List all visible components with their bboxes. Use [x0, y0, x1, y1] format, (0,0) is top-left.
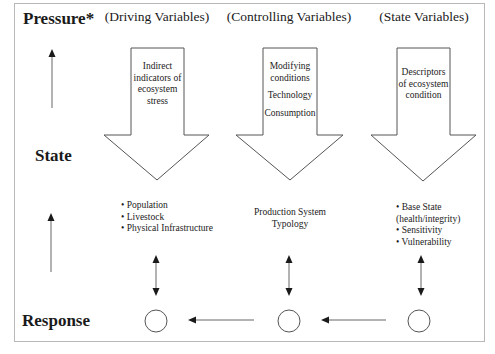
arrow-text-line: conditions	[263, 73, 317, 85]
state-variables-heading: (State Variables)	[359, 9, 489, 25]
state-to-controlling-left-arrow-icon	[321, 317, 386, 324]
controlling-arrow-text: Modifying conditions Technology Consumpt…	[263, 61, 317, 119]
state-variables-list: • Base State (health/integrity) • Sensit…	[396, 202, 460, 248]
arrow-text-line: Consumption	[263, 108, 317, 120]
list-item: Production System	[252, 207, 328, 219]
arrow-text-line: stress	[131, 96, 184, 108]
controlling-double-arrow-icon	[286, 255, 293, 296]
controlling-variables-list: Production System Typology	[252, 207, 328, 230]
driving-response-circle-icon	[145, 310, 167, 332]
list-item: (health/integrity)	[396, 214, 460, 226]
arrow-text-line: Modifying	[263, 61, 317, 73]
state-double-arrow-icon	[418, 255, 425, 296]
controlling-response-circle-icon	[278, 310, 300, 332]
diagram-graphics	[0, 0, 495, 354]
list-item: Typology	[252, 219, 328, 231]
arrow-text-line: condition	[397, 90, 450, 102]
driving-double-arrow-icon	[153, 255, 160, 296]
arrow-text-line: Indirect	[131, 61, 184, 73]
arrow-text-line: Technology	[263, 90, 317, 102]
pressure-label: Pressure*	[23, 9, 94, 29]
list-item: • Vulnerability	[396, 237, 460, 249]
response-label: Response	[22, 311, 90, 331]
arrow-text-line: indicators of	[131, 73, 184, 85]
state-label: State	[35, 146, 72, 166]
arrow-text-line: of ecosystem	[397, 79, 450, 91]
list-item: • Physical Infrastructure	[121, 223, 213, 235]
list-item: • Base State	[396, 202, 460, 214]
driving-variables-heading: (Driving Variables)	[92, 9, 222, 25]
driving-arrow-text: Indirect indicators of ecosystem stress	[131, 61, 184, 107]
state-response-circle-icon	[408, 310, 430, 332]
list-item: • Population	[121, 200, 213, 212]
state-arrow-text: Descriptors of ecosystem condition	[397, 67, 450, 102]
pressure-state-up-arrow-icon	[49, 49, 56, 108]
arrow-text-line: ecosystem	[131, 84, 184, 96]
controlling-to-driving-left-arrow-icon	[188, 317, 254, 324]
arrow-text-line: Descriptors	[397, 67, 450, 79]
list-item: • Livestock	[121, 212, 213, 224]
state-response-up-arrow-icon	[48, 213, 55, 272]
controlling-variables-heading: (Controlling Variables)	[224, 9, 354, 25]
driving-variables-list: • Population • Livestock • Physical Infr…	[121, 200, 213, 235]
list-item: • Sensitivity	[396, 225, 460, 237]
